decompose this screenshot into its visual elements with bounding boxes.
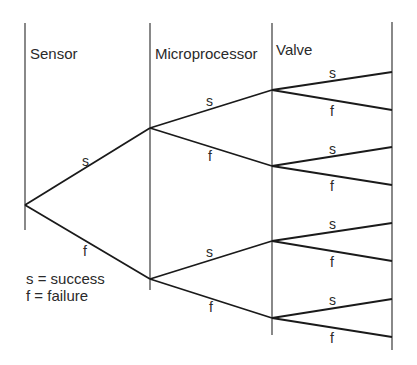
- branch-label-success: s: [329, 141, 336, 157]
- branch-label-failure: f: [330, 254, 334, 270]
- legend-failure: f = failure: [26, 287, 88, 304]
- branch-label-success: s: [329, 216, 336, 232]
- branch-label-failure: f: [209, 299, 213, 315]
- event-tree-diagram: Sensor Microprocessor Valve s f s f s f …: [0, 0, 417, 365]
- sensor-heading: Sensor: [30, 45, 78, 62]
- branch-label-success: s: [82, 153, 89, 169]
- valve-heading: Valve: [276, 41, 312, 58]
- branch-label-success: s: [329, 292, 336, 308]
- branch-label-success: s: [329, 65, 336, 81]
- branch-label-failure: f: [330, 178, 334, 194]
- branch-label-success: s: [206, 244, 213, 260]
- legend-success: s = success: [26, 270, 105, 287]
- branch-label-failure: f: [83, 243, 87, 259]
- branch-label-failure: f: [330, 330, 334, 346]
- sensor-failure-branch: [25, 205, 150, 279]
- branch-label-failure: f: [208, 148, 212, 164]
- branch-label-success: s: [206, 93, 213, 109]
- branch-label-failure: f: [330, 103, 334, 119]
- microprocessor-heading: Microprocessor: [155, 45, 258, 62]
